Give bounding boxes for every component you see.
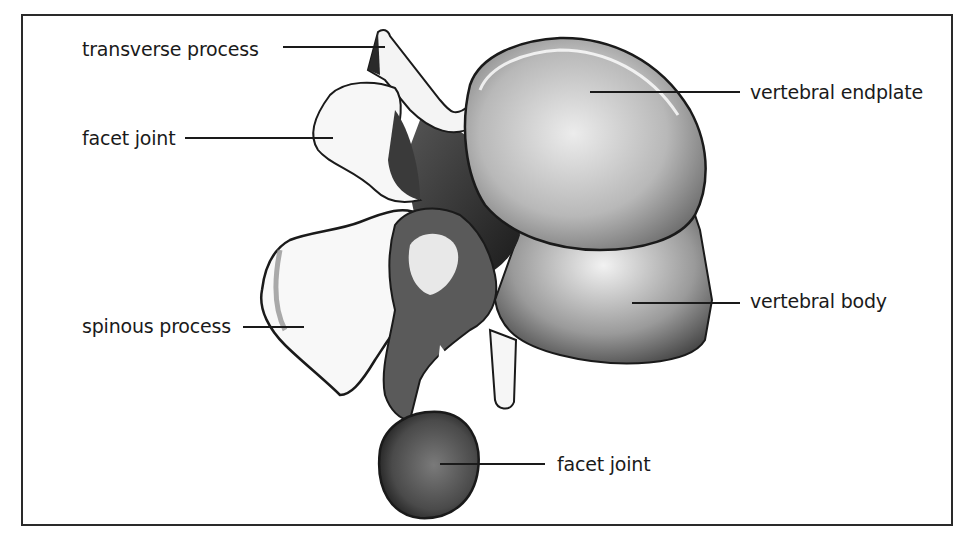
label-text: spinous process xyxy=(82,317,231,336)
label-text: facet joint xyxy=(82,129,175,148)
label-text: vertebral endplate xyxy=(750,83,923,102)
leader-line xyxy=(283,46,385,48)
leader-line xyxy=(243,326,304,328)
vertebral-endplate-shape xyxy=(465,38,706,250)
leader-line xyxy=(590,91,740,93)
label-text: transverse process xyxy=(82,40,259,59)
leader-line xyxy=(185,137,333,139)
label-text: vertebral body xyxy=(750,292,887,311)
leader-line xyxy=(440,463,545,465)
label-text: facet joint xyxy=(557,455,650,474)
leader-line xyxy=(632,302,740,304)
